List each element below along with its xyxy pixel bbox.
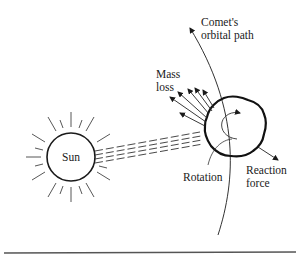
- reaction-force-arrow: [258, 147, 278, 160]
- bottom-rule: [4, 252, 296, 253]
- orbital-path: [190, 28, 230, 235]
- rotation-label: Rotation: [183, 171, 223, 183]
- orbital-path-label-line2: orbital path: [201, 29, 254, 42]
- rotation-leader-line: [208, 139, 232, 165]
- reaction-force-label-line1: Reaction: [246, 164, 287, 176]
- mass-loss-label-line2: loss: [156, 81, 174, 93]
- mass-loss-label-line1: Mass: [156, 68, 181, 80]
- sun: Sun: [26, 112, 110, 202]
- comet-nucleus: [205, 97, 266, 157]
- rotation-arrow: [222, 112, 240, 139]
- mass-loss-arrows: [170, 88, 214, 126]
- sun-label: Sun: [62, 151, 80, 163]
- orbital-path-label-line1: Comet's: [201, 16, 239, 28]
- sunlight-beam: [95, 132, 203, 163]
- comet-nongravitational-force-diagram: Sun Comet's orbital path Rotation Mass l…: [0, 0, 298, 255]
- reaction-force-label-line2: force: [246, 177, 270, 189]
